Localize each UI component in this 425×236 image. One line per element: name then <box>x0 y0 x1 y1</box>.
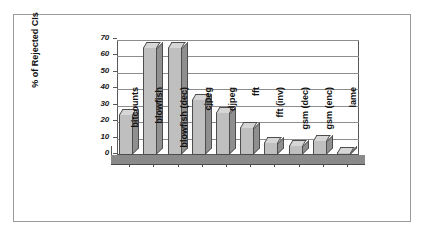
y-axis-title: % of Rejected CIs <box>30 0 40 115</box>
x-tick-label: lame <box>348 87 358 167</box>
x-tick-label: gsm (dec) <box>300 87 310 167</box>
y-tick-mark <box>113 120 117 121</box>
y-tick-label: 40 <box>69 83 109 91</box>
y-tick-label: 20 <box>69 116 109 124</box>
x-tick-label: fft (inv) <box>275 87 285 167</box>
y-tick-label: 10 <box>69 133 109 141</box>
x-tick-label: blowfish (dec) <box>179 87 189 167</box>
y-tick-label: 70 <box>69 34 109 42</box>
gridline <box>117 40 359 41</box>
y-tick-label: 30 <box>69 100 109 108</box>
x-tick-label: bitcounts <box>130 87 140 167</box>
y-tick-mark <box>113 153 117 154</box>
x-tick-label: cjpeg <box>203 87 213 167</box>
y-tick-label: 60 <box>69 50 109 58</box>
chart-screenshot: % of Rejected CIs 010203040506070 bitcou… <box>0 0 425 236</box>
y-tick-mark <box>113 104 117 105</box>
x-tick-label: fft <box>251 87 261 167</box>
y-tick-mark <box>113 38 117 39</box>
y-tick-label: 0 <box>69 149 109 157</box>
x-tick-label: blowfish <box>154 87 164 167</box>
figure-frame: % of Rejected CIs 010203040506070 bitcou… <box>13 14 411 222</box>
y-tick-label: 50 <box>69 67 109 75</box>
x-tick-label: djpeg <box>227 87 237 167</box>
x-tick-label: gsm (enc) <box>324 87 334 167</box>
y-tick-mark <box>113 87 117 88</box>
y-tick-mark <box>113 71 117 72</box>
y-tick-mark <box>113 137 117 138</box>
y-tick-mark <box>113 54 117 55</box>
floor-right-tip <box>359 155 365 164</box>
